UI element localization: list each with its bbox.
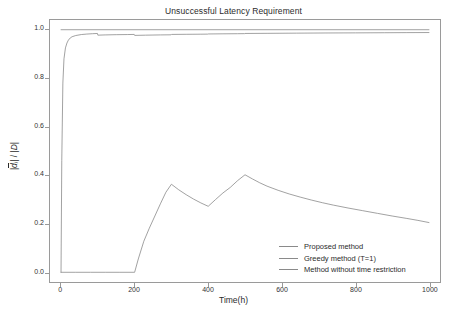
y-tick-label: 0.8 xyxy=(0,73,44,80)
x-tick-label: 800 xyxy=(336,286,376,293)
legend-item[interactable]: Greedy method (T=1) xyxy=(279,253,406,265)
legend-label: Proposed method xyxy=(304,241,363,253)
x-tick-mark xyxy=(356,283,357,287)
x-tick-label: 1000 xyxy=(410,286,450,293)
x-tick-mark xyxy=(208,283,209,287)
y-axis-label: |di| / |D| xyxy=(9,96,19,216)
x-tick-label: 200 xyxy=(114,286,154,293)
x-tick-label: 600 xyxy=(262,286,302,293)
x-tick-mark xyxy=(134,283,135,287)
legend-label: Method without time restriction xyxy=(304,264,406,276)
chart-figure: Unsuccessful Latency Requirement |di| / … xyxy=(0,0,467,317)
x-tick-label: 400 xyxy=(188,286,228,293)
legend-item[interactable]: Proposed method xyxy=(279,241,406,253)
x-tick-mark xyxy=(60,283,61,287)
y-tick-label: 0.2 xyxy=(0,219,44,226)
x-axis-label: Time(h) xyxy=(0,295,467,305)
legend-line-icon xyxy=(279,246,298,247)
x-tick-mark xyxy=(430,283,431,287)
legend-line-icon xyxy=(279,269,298,270)
y-tick-label: 0.0 xyxy=(0,268,44,275)
x-tick-label: 0 xyxy=(40,286,80,293)
chart-legend: Proposed methodGreedy method (T=1)Method… xyxy=(279,241,406,276)
legend-line-icon xyxy=(279,258,298,259)
series-line-0 xyxy=(61,33,429,273)
chart-title: Unsuccessful Latency Requirement xyxy=(0,6,467,16)
x-tick-mark xyxy=(282,283,283,287)
legend-label: Greedy method (T=1) xyxy=(304,253,376,265)
y-tick-label: 1.0 xyxy=(0,24,44,31)
y-tick-label: 0.4 xyxy=(0,170,44,177)
legend-item[interactable]: Method without time restriction xyxy=(279,264,406,276)
y-tick-label: 0.6 xyxy=(0,122,44,129)
